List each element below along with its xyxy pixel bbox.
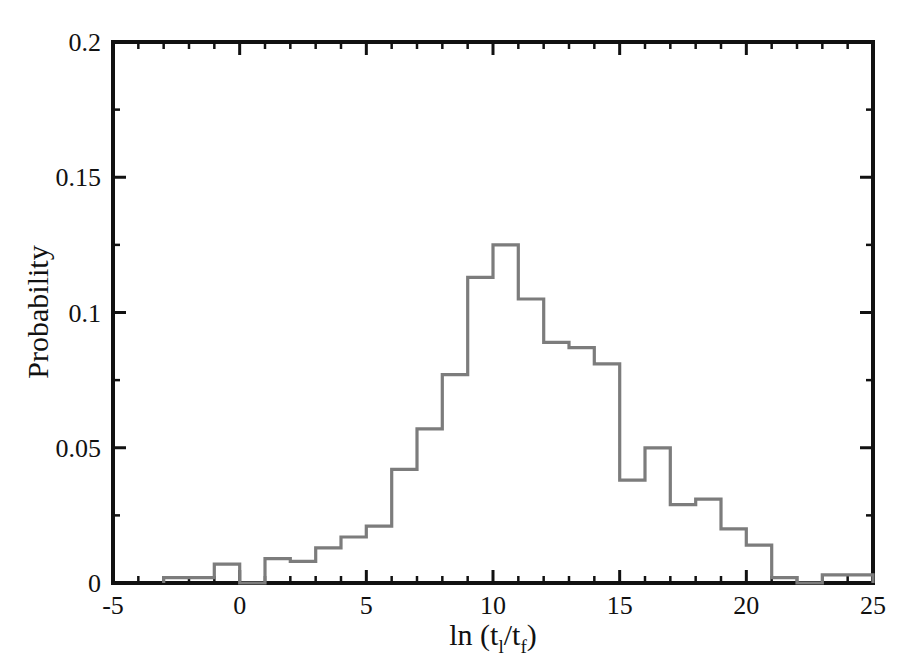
y-tick-label: 0.2 — [69, 28, 102, 57]
x-tick-label: 20 — [733, 591, 759, 620]
histogram-outline — [164, 245, 873, 583]
x-tick-label: 15 — [607, 591, 633, 620]
x-tick-label: 25 — [860, 591, 886, 620]
x-axis-ticks — [113, 42, 873, 583]
x-tick-label: 10 — [480, 591, 506, 620]
y-tick-label: 0.15 — [56, 163, 102, 192]
histogram-figure: -50510152025 00.050.10.150.2 ln (tl/tf) … — [0, 0, 914, 663]
y-axis-ticks — [113, 42, 873, 583]
axes-box — [113, 42, 873, 583]
y-tick-label: 0 — [88, 569, 101, 598]
x-tick-label: -5 — [102, 591, 124, 620]
y-tick-label: 0.1 — [69, 299, 102, 328]
y-axis-tick-labels: 00.050.10.150.2 — [56, 28, 102, 598]
x-axis-tick-labels: -50510152025 — [102, 591, 886, 620]
plot-frame — [113, 42, 873, 583]
x-axis-label: ln (tl/tf) — [449, 618, 536, 657]
probability-histogram-svg: -50510152025 00.050.10.150.2 ln (tl/tf) … — [0, 0, 914, 663]
histogram-bars — [164, 245, 873, 583]
x-tick-label: 0 — [233, 591, 246, 620]
y-tick-label: 0.05 — [56, 434, 102, 463]
x-tick-label: 5 — [360, 591, 373, 620]
y-axis-label: Probability — [21, 245, 54, 378]
